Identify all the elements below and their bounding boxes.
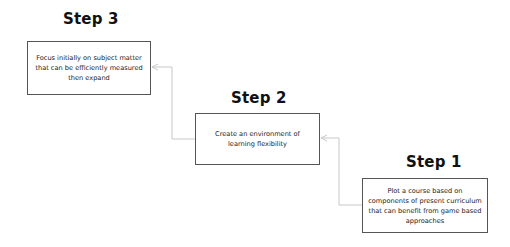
step-3-title: Step 3 [63,10,119,28]
step-1-box: Plot a course based on components of pre… [362,178,488,233]
step-1-title: Step 1 [406,153,462,171]
connector-step2-to-step3 [152,67,195,139]
step-1-text: Plot a course based on components of pre… [367,186,483,226]
step-2-box: Create an environment of learning flexib… [195,113,320,165]
connector-step1-to-step2 [321,138,362,205]
step-3-box: Focus initially on subject matter that c… [27,41,151,95]
step-2-text: Create an environment of learning flexib… [213,129,303,149]
step-3-text: Focus initially on subject matter that c… [32,53,146,83]
step-2-title: Step 2 [231,89,287,107]
